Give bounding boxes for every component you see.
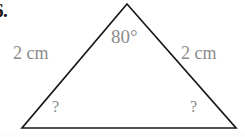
apex-angle-label: 80° [111, 27, 138, 46]
right-base-angle-label: ? [190, 99, 197, 115]
geometry-problem-figure: 6. 80° 2 cm 2 cm ? ? [0, 0, 245, 137]
triangle-drawing [0, 0, 245, 137]
problem-number: 6. [0, 1, 7, 20]
left-base-angle-label: ? [52, 99, 59, 115]
right-side-length-label: 2 cm [181, 44, 217, 62]
left-side-length-label: 2 cm [13, 44, 49, 62]
